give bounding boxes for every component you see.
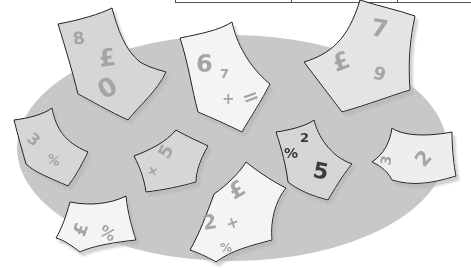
maths-money-illustration: 8 £ 0 6 7 + = 7 £ 9 3 % + 5 [0, 0, 471, 268]
svg-text:%: % [284, 145, 298, 161]
illustration-canvas: 8 £ 0 6 7 + = 7 £ 9 3 % + 5 [0, 0, 471, 268]
svg-text:6: 6 [196, 50, 213, 78]
svg-text:%: % [220, 241, 232, 255]
svg-text:2: 2 [300, 130, 309, 145]
svg-text:7: 7 [220, 66, 229, 81]
svg-text:+: + [222, 90, 235, 108]
